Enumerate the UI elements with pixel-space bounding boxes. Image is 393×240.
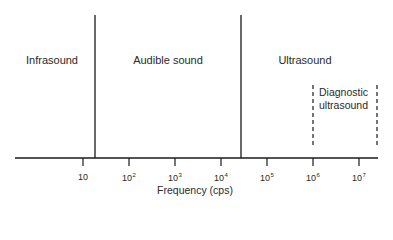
- tick-label-10e6: 106: [306, 172, 320, 183]
- region-label-audible-sound: Audible sound: [133, 54, 203, 66]
- subregion-label-line2: ultrasound: [319, 99, 368, 112]
- axis-title-frequency: Frequency (cps): [157, 184, 233, 196]
- region-label-infrasound: Infrasound: [26, 54, 78, 66]
- tick-label-10e7: 107: [352, 172, 366, 183]
- tick-label-10e3: 103: [168, 172, 182, 183]
- tick-label-10: 10: [78, 172, 88, 182]
- tick-label-10e4: 104: [214, 172, 228, 183]
- subregion-label-line1: Diagnostic: [319, 86, 368, 99]
- tick-label-10e2: 102: [122, 172, 136, 183]
- tick-label-10e5: 105: [260, 172, 274, 183]
- axis-ticks: [83, 158, 359, 166]
- region-label-ultrasound: Ultrasound: [278, 54, 331, 66]
- subregion-label-diagnostic-ultrasound: Diagnostic ultrasound: [319, 86, 368, 112]
